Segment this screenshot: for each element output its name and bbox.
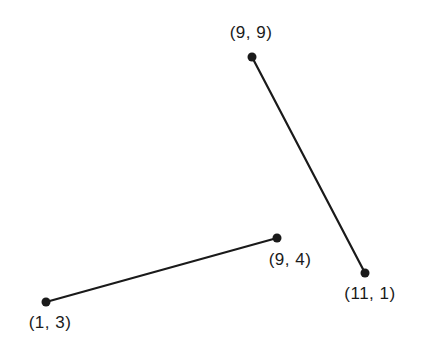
line-segments-diagram xyxy=(0,0,440,363)
point-9-4-dot xyxy=(273,234,282,243)
point-label-9-9: (9, 9) xyxy=(230,23,273,43)
point-1-3-dot xyxy=(42,298,51,307)
point-9-9-dot xyxy=(248,53,257,62)
segment-1-3-to-9-4 xyxy=(46,238,277,302)
point-label-11-1: (11, 1) xyxy=(344,284,395,304)
point-label-9-4: (9, 4) xyxy=(269,250,312,270)
point-11-1-dot xyxy=(361,269,370,278)
point-label-1-3: (1, 3) xyxy=(29,313,72,333)
